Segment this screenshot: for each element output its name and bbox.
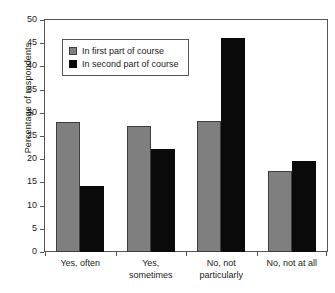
bar-group <box>186 20 257 252</box>
y-axis-tick-label: 5 <box>7 223 37 234</box>
y-axis-tick-label: 10 <box>7 200 37 211</box>
bar <box>80 186 104 252</box>
legend-swatch-icon <box>69 47 77 55</box>
y-axis-tick-mark <box>40 252 44 253</box>
y-axis-tick-label: 25 <box>7 130 37 141</box>
bar <box>151 149 175 252</box>
y-axis-tick-mark <box>40 229 44 230</box>
x-axis-labels: Yes, oftenYes,sometimesNo, notparticular… <box>45 258 327 290</box>
y-axis-tick-mark <box>40 136 44 137</box>
y-axis-tick-label: 0 <box>7 246 37 257</box>
legend-label: In first part of course <box>82 46 164 56</box>
bar <box>268 171 292 252</box>
x-axis-tick-mark <box>45 252 46 256</box>
y-axis-tick-label: 40 <box>7 60 37 71</box>
bar <box>197 121 221 252</box>
y-axis-tick-label: 50 <box>7 14 37 25</box>
x-axis-tick-mark <box>186 252 187 256</box>
legend-item-first: In first part of course <box>69 44 179 57</box>
y-axis-tick-label: 15 <box>7 176 37 187</box>
y-axis-tick-mark <box>40 66 44 67</box>
x-axis-tick-label: No, notparticularly <box>186 258 257 281</box>
bar-group <box>257 20 328 252</box>
y-axis-tick-mark <box>40 113 44 114</box>
y-axis-tick-label: 20 <box>7 153 37 164</box>
y-axis-tick-mark <box>40 90 44 91</box>
y-axis-tick-mark <box>40 182 44 183</box>
legend-item-second: In second part of course <box>69 57 179 70</box>
y-axis-tick-mark <box>40 206 44 207</box>
y-axis-tick-label: 35 <box>7 84 37 95</box>
x-axis-tick-label: Yes,sometimes <box>116 258 187 281</box>
bar-chart: Percentage of respondents 50454035302520… <box>0 0 335 293</box>
y-axis-tick-mark <box>40 159 44 160</box>
bar <box>127 126 151 252</box>
y-axis-tick-label: 45 <box>7 37 37 48</box>
bar <box>56 122 80 252</box>
x-axis-tick-label: No, not at all <box>257 258 328 270</box>
bar <box>292 161 316 252</box>
x-axis-tick-label: Yes, often <box>45 258 116 270</box>
x-axis-tick-mark <box>257 252 258 256</box>
legend-swatch-icon <box>69 60 77 68</box>
y-axis-tick-mark <box>40 20 44 21</box>
y-axis: 50454035302520151050 <box>0 0 44 272</box>
x-axis-tick-mark <box>326 252 327 256</box>
y-axis-tick-mark <box>40 43 44 44</box>
x-axis-tick-mark <box>116 252 117 256</box>
y-axis-tick-label: 30 <box>7 107 37 118</box>
legend-label: In second part of course <box>82 59 179 69</box>
bar <box>221 38 245 252</box>
chart-legend: In first part of course In second part o… <box>62 39 189 76</box>
